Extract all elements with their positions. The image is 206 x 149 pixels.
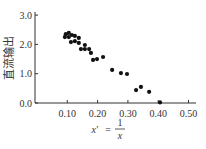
data-point xyxy=(119,71,123,75)
x-tick-label: 0.20 xyxy=(89,108,107,119)
x-tick-label: 0.50 xyxy=(180,108,198,119)
svg-text:=: = xyxy=(105,124,111,135)
data-point xyxy=(89,51,93,55)
svg-text:x: x xyxy=(117,130,123,141)
data-point xyxy=(110,68,114,72)
svg-text:x': x' xyxy=(90,124,98,135)
data-point xyxy=(134,88,138,92)
data-point xyxy=(83,43,87,47)
data-point xyxy=(95,57,99,61)
data-point xyxy=(79,47,83,51)
y-tick-label: 1.0 xyxy=(20,68,33,79)
y-tick-label: 0.0 xyxy=(20,98,33,109)
data-point xyxy=(73,39,77,43)
data-point xyxy=(63,35,67,39)
y-tick-label: 3.0 xyxy=(20,10,33,21)
scatter-chart: 0.01.02.03.0 0.100.200.300.400.50 直流输出 x… xyxy=(0,0,206,149)
data-point xyxy=(125,72,129,76)
data-points xyxy=(63,31,162,105)
svg-text:1: 1 xyxy=(118,117,123,128)
data-point xyxy=(158,100,162,104)
y-axis-label: 直流输出 xyxy=(2,36,16,80)
data-point xyxy=(147,90,151,94)
axes xyxy=(35,12,196,103)
y-tick-label: 2.0 xyxy=(20,39,33,50)
x-tick-label: 0.40 xyxy=(149,108,167,119)
data-point xyxy=(73,34,77,38)
data-point xyxy=(69,40,73,44)
data-point xyxy=(83,47,87,51)
data-point xyxy=(91,58,95,62)
data-point xyxy=(77,36,81,40)
data-point xyxy=(101,55,105,59)
x-axis-label: x' = 1 x xyxy=(90,117,125,141)
x-tick-label: 0.10 xyxy=(59,108,77,119)
data-point xyxy=(77,41,81,45)
data-point xyxy=(87,47,91,51)
data-point xyxy=(139,85,143,89)
data-point xyxy=(67,35,71,39)
